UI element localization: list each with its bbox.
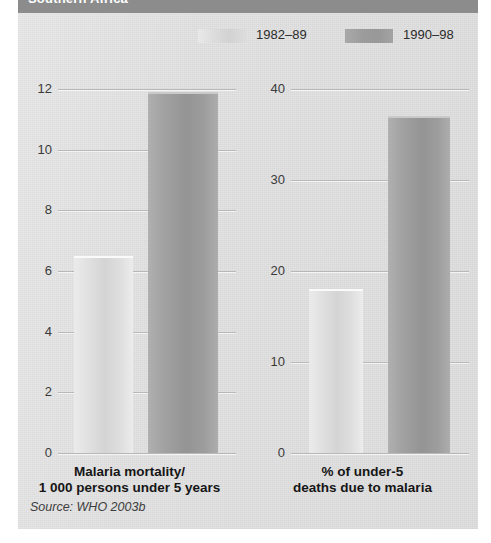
bar-1982-89 bbox=[309, 289, 363, 453]
y-axis-tick-label: 6 bbox=[45, 263, 52, 278]
plot-area-left: 024681012 bbox=[58, 71, 236, 453]
y-axis-tick-label: 12 bbox=[38, 81, 52, 96]
axis-caption-right-line1: % of under-5 bbox=[255, 464, 470, 480]
gridline bbox=[291, 89, 469, 91]
bar-1982-89 bbox=[74, 256, 133, 453]
gridline bbox=[291, 453, 469, 455]
y-axis-tick-label: 4 bbox=[45, 324, 52, 339]
gridline bbox=[58, 453, 236, 455]
axis-caption-left: Malaria mortality/ 1 000 persons under 5… bbox=[22, 464, 237, 496]
chart-malaria-mortality: 024681012 Malaria mortality/ 1 000 perso… bbox=[22, 60, 237, 460]
legend-label-1982-89: 1982–89 bbox=[256, 27, 307, 42]
figure-title: Southern Africa bbox=[28, 0, 128, 6]
figure-header-bar: Southern Africa bbox=[18, 0, 478, 13]
chart-under5-deaths: 010203040 % of under-5 deaths due to mal… bbox=[255, 60, 470, 460]
legend-swatch-dark bbox=[345, 29, 393, 43]
axis-caption-left-line2: 1 000 persons under 5 years bbox=[22, 480, 237, 496]
plot-area-right: 010203040 bbox=[291, 71, 469, 453]
y-axis-tick-label: 0 bbox=[45, 445, 52, 460]
y-axis-tick-label: 8 bbox=[45, 202, 52, 217]
axis-caption-right: % of under-5 deaths due to malaria bbox=[255, 464, 470, 496]
y-axis-tick-label: 40 bbox=[271, 81, 285, 96]
y-axis-tick-label: 10 bbox=[271, 354, 285, 369]
y-axis-tick-label: 20 bbox=[271, 263, 285, 278]
legend-label-1990-98: 1990–98 bbox=[403, 27, 454, 42]
y-axis-tick-label: 0 bbox=[278, 445, 285, 460]
axis-caption-right-line2: deaths due to malaria bbox=[255, 480, 470, 496]
y-axis-tick-label: 2 bbox=[45, 384, 52, 399]
source-note: Source: WHO 2003b bbox=[30, 500, 145, 514]
bar-1990-98 bbox=[148, 92, 218, 453]
chart-legend: 1982–89 1990–98 bbox=[180, 27, 460, 45]
legend-swatch-light bbox=[198, 29, 246, 43]
scanned-page: Southern Africa 1982–89 1990–98 02468101… bbox=[0, 0, 491, 543]
bar-1990-98 bbox=[388, 116, 450, 453]
gridline bbox=[58, 89, 236, 91]
axis-caption-left-line1: Malaria mortality/ bbox=[22, 464, 237, 480]
y-axis-tick-label: 30 bbox=[271, 172, 285, 187]
y-axis-tick-label: 10 bbox=[38, 142, 52, 157]
